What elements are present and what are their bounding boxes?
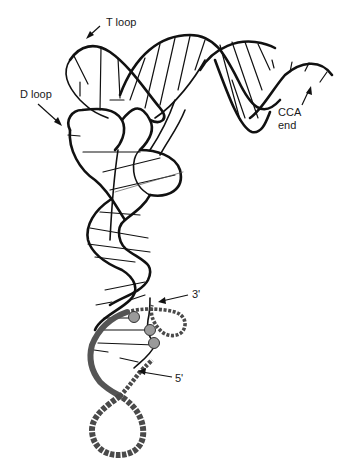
d-loop-arrow (38, 104, 58, 122)
cca-end-label-line1: CCA (278, 106, 301, 118)
base-pair-3 (149, 338, 160, 349)
annotation-arrows (38, 26, 312, 377)
cca-end-label-line2: end (278, 119, 296, 131)
mrna-strand (90, 312, 127, 396)
mrna-5prime-loop (92, 396, 143, 455)
base-pair-1 (129, 312, 140, 323)
trna-structure-drawing (0, 0, 349, 468)
three-prime-label: 3' (192, 288, 200, 300)
five-prime-label: 5' (175, 372, 183, 384)
five-prime-arrow (142, 372, 172, 377)
three-prime-arrow (162, 295, 188, 301)
d-loop-label: D loop (20, 88, 52, 100)
t-loop-label: T loop (106, 16, 136, 28)
base-pair-2 (145, 325, 156, 336)
